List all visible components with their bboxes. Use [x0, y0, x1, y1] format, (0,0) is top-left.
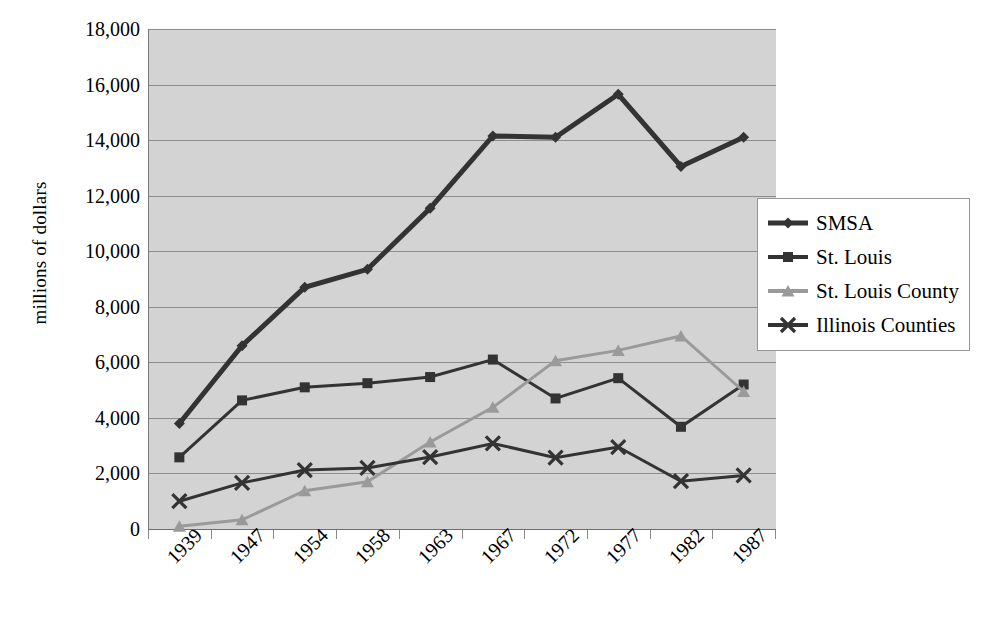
legend-label: St. Louis — [816, 247, 892, 268]
x-axis-tick — [775, 530, 776, 539]
x-axis-tick — [650, 530, 651, 539]
legend-swatch-x-icon — [766, 315, 810, 335]
legend-label: St. Louis County — [816, 281, 959, 302]
square-marker — [783, 252, 793, 262]
legend-label: Illinois Counties — [816, 315, 955, 336]
y-axis-tick-label: 16,000 — [48, 75, 140, 95]
y-axis-tick-label: 2,000 — [48, 463, 140, 483]
gridline — [149, 473, 776, 474]
plot-area — [148, 29, 776, 529]
y-axis-tick-label: 14,000 — [48, 130, 140, 150]
x-axis-tick-labels: 1939194719541958196319671972197719821987 — [148, 539, 776, 634]
gridline — [149, 307, 776, 308]
legend-label: SMSA — [816, 213, 873, 234]
y-axis-tick-label: 4,000 — [48, 408, 140, 428]
x-axis-tick — [524, 530, 525, 539]
legend-item[interactable]: Illinois Counties — [766, 308, 959, 342]
x-axis-tick — [462, 530, 463, 539]
x-axis-tick — [336, 530, 337, 539]
x-axis-tick — [148, 530, 149, 539]
gridline — [149, 140, 776, 141]
line-chart: millions of dollars 02,0004,0006,0008,00… — [0, 0, 1005, 636]
y-axis-tick-label: 8,000 — [48, 297, 140, 317]
y-axis-tick-label: 18,000 — [48, 19, 140, 39]
gridline — [149, 196, 776, 197]
legend-item[interactable]: St. Louis — [766, 240, 959, 274]
y-axis-tick-label: 10,000 — [48, 241, 140, 261]
legend-swatch-diamond-icon — [766, 213, 810, 233]
x-axis-tick — [712, 530, 713, 539]
y-axis-tick-label: 0 — [48, 519, 140, 539]
y-axis-tick-label: 6,000 — [48, 352, 140, 372]
gridline — [149, 29, 776, 30]
gridline — [149, 362, 776, 363]
x-axis-tick — [587, 530, 588, 539]
legend-swatch-square-icon — [766, 247, 810, 267]
gridline — [149, 85, 776, 86]
chart-legend: SMSASt. LouisSt. Louis CountyIllinois Co… — [757, 198, 970, 351]
diamond-marker — [783, 218, 794, 229]
y-axis-tick-labels: 02,0004,0006,0008,00010,00012,00014,0001… — [48, 0, 140, 636]
legend-swatch-triangle-icon — [766, 281, 810, 301]
gridline — [149, 418, 776, 419]
y-axis-tick-label: 12,000 — [48, 186, 140, 206]
x-axis-tick — [273, 530, 274, 539]
x-axis-tick — [399, 530, 400, 539]
x-axis-tick — [211, 530, 212, 539]
legend-item[interactable]: St. Louis County — [766, 274, 959, 308]
legend-item[interactable]: SMSA — [766, 206, 959, 240]
gridline — [149, 251, 776, 252]
